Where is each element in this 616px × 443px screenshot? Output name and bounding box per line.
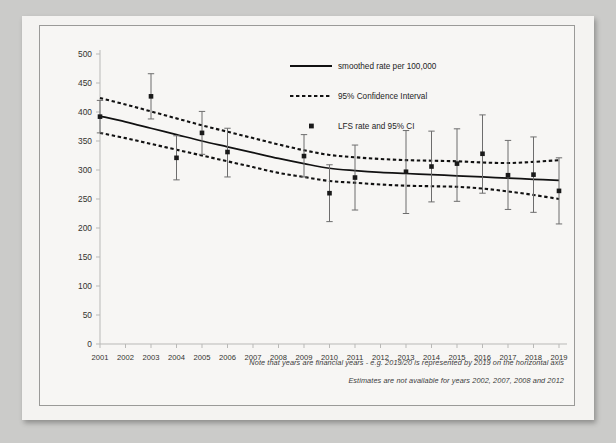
figure-note-missing-estimates: Estimates are not available for years 20… bbox=[348, 376, 564, 385]
figure-frame: 050100150200250300350400450500 200120022… bbox=[39, 25, 575, 406]
axis-group bbox=[100, 50, 567, 344]
svg-text:2006: 2006 bbox=[219, 353, 236, 362]
svg-text:350: 350 bbox=[78, 136, 92, 146]
svg-text:smoothed rate per 100,000: smoothed rate per 100,000 bbox=[338, 62, 437, 71]
svg-text:450: 450 bbox=[78, 78, 92, 88]
svg-text:95% Confidence Interval: 95% Confidence Interval bbox=[338, 92, 427, 101]
legend: smoothed rate per 100,00095% Confidence … bbox=[290, 62, 437, 131]
scanned-page: 050100150200250300350400450500 200120022… bbox=[0, 0, 616, 443]
line-chart: 050100150200250300350400450500 200120022… bbox=[40, 26, 574, 405]
svg-text:LFS rate and 95% CI: LFS rate and 95% CI bbox=[338, 122, 414, 131]
svg-text:400: 400 bbox=[78, 107, 92, 117]
chart-plot-area: 050100150200250300350400450500 200120022… bbox=[40, 26, 574, 405]
figure-note-financial-years: Note that years are financial years - e.… bbox=[249, 358, 564, 367]
error-bars bbox=[97, 74, 562, 224]
y-tick-labels: 050100150200250300350400450500 bbox=[78, 49, 100, 349]
svg-text:200: 200 bbox=[78, 223, 92, 233]
svg-text:300: 300 bbox=[78, 165, 92, 175]
svg-text:2003: 2003 bbox=[143, 353, 160, 362]
paper-sheet: 050100150200250300350400450500 200120022… bbox=[22, 16, 594, 420]
svg-text:250: 250 bbox=[78, 194, 92, 204]
svg-text:0: 0 bbox=[87, 339, 92, 349]
svg-text:2004: 2004 bbox=[168, 353, 185, 362]
svg-text:2001: 2001 bbox=[92, 353, 109, 362]
svg-text:2005: 2005 bbox=[194, 353, 211, 362]
svg-text:150: 150 bbox=[78, 252, 92, 262]
svg-text:500: 500 bbox=[78, 49, 92, 59]
svg-text:50: 50 bbox=[83, 310, 93, 320]
svg-text:2002: 2002 bbox=[117, 353, 134, 362]
svg-text:100: 100 bbox=[78, 281, 92, 291]
